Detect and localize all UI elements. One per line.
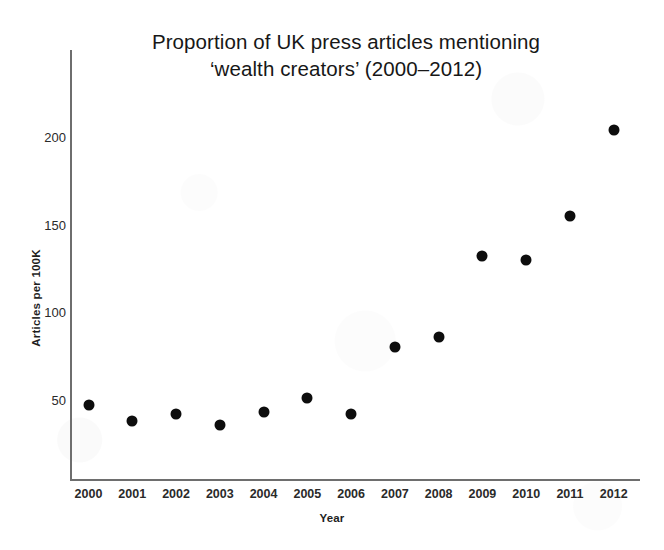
y-axis-line: [70, 50, 72, 480]
y-tick-label-200: 200: [22, 129, 66, 144]
data-point-2011: [564, 210, 575, 221]
x-axis-title: Year: [0, 512, 664, 524]
data-point-2003: [214, 419, 225, 430]
scatter-chart-figure: Proportion of UK press articles mentioni…: [0, 0, 664, 550]
y-tick-label-100: 100: [22, 305, 66, 320]
y-axis-title: Articles per 100K: [30, 238, 42, 358]
chart-title-line-2: ‘wealth creators’ (2000–2012): [210, 57, 482, 80]
data-point-2008: [433, 331, 444, 342]
data-point-2004: [258, 407, 269, 418]
x-axis-line: [70, 479, 640, 481]
data-point-2000: [83, 400, 94, 411]
data-point-2001: [127, 416, 138, 427]
y-tick-label-50: 50: [22, 393, 66, 408]
data-point-2009: [477, 251, 488, 262]
data-point-2006: [346, 409, 357, 420]
chart-title-line-1: Proportion of UK press articles mentioni…: [152, 30, 540, 53]
data-point-2012: [608, 124, 619, 135]
data-point-2007: [389, 342, 400, 353]
data-point-2005: [302, 393, 313, 404]
x-tick-label-2012: 2012: [587, 487, 641, 501]
data-point-2002: [171, 409, 182, 420]
data-point-2010: [521, 254, 532, 265]
chart-title: Proportion of UK press articles mentioni…: [86, 28, 606, 82]
y-tick-label-150: 150: [22, 217, 66, 232]
